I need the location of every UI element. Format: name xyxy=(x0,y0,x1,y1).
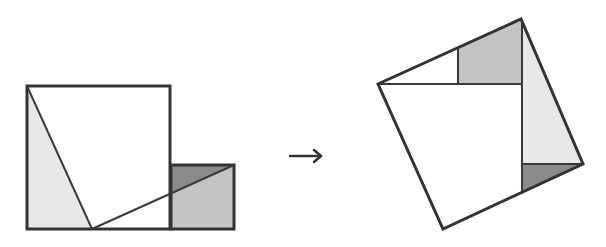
right-figure xyxy=(378,19,583,229)
pythagorean-diagram xyxy=(0,0,606,247)
right-medium-region xyxy=(458,19,522,84)
left-figure xyxy=(27,86,234,229)
arrow-icon xyxy=(290,150,321,162)
